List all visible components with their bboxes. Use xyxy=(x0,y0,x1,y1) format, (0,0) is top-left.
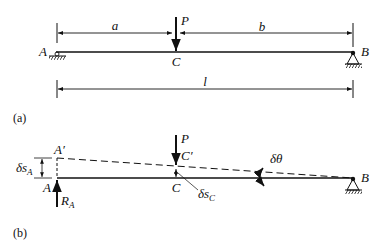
label-B: B xyxy=(361,44,369,59)
label-C: C xyxy=(172,180,181,195)
label-l: l xyxy=(203,74,207,89)
caption-a: (a) xyxy=(13,111,26,125)
rotation-arc-icon xyxy=(260,168,264,186)
label-A: A xyxy=(38,44,47,59)
label-a: a xyxy=(112,18,119,33)
ground-hatch-icon xyxy=(49,56,66,60)
label-RA: RA xyxy=(60,193,75,210)
label-C: C xyxy=(172,54,181,69)
label-delta-sA: δsA xyxy=(16,160,33,177)
label-P: P xyxy=(180,131,189,146)
label-delta-theta: δθ xyxy=(270,151,283,166)
label-P: P xyxy=(180,13,189,28)
displaced-beam xyxy=(57,158,353,178)
ground-hatch-icon xyxy=(345,190,362,194)
caption-b: (b) xyxy=(13,226,27,240)
ground-hatch-icon xyxy=(345,64,362,68)
label-B: B xyxy=(361,170,369,185)
panel-b: δsA A′ A RA P C′ C δsC δθ B (b) xyxy=(13,131,369,240)
beam-virtual-work-diagram: a b A B P C l (a) δsA xyxy=(0,0,385,248)
leader-delta-sC xyxy=(178,173,198,190)
label-A: A xyxy=(42,180,51,195)
label-delta-sC: δsC xyxy=(198,186,216,203)
label-b: b xyxy=(259,19,266,34)
label-C-prime: C′ xyxy=(181,148,193,163)
panel-a: a b A B P C l (a) xyxy=(13,13,369,125)
label-A-prime: A′ xyxy=(53,142,65,157)
